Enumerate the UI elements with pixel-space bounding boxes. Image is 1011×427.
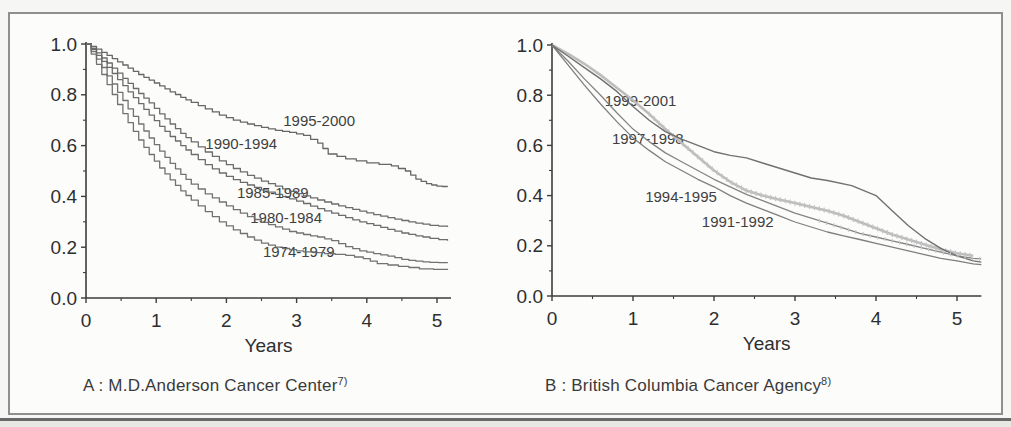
panel-b-x-tick-label: 5 <box>952 308 963 329</box>
caption-panel-a: A : M.D.Anderson Cancer Center7) <box>83 375 348 396</box>
panel-b-x-tick-label: 4 <box>871 308 882 329</box>
panel-b-x-tick-label: 2 <box>709 308 720 329</box>
panel-a-y-tick-label: 0.8 <box>51 84 77 105</box>
survival-charts-svg: 1.00.80.60.40.20.0012345Years1995-200019… <box>0 0 1011 427</box>
series-label-1995-2000: 1995-2000 <box>283 112 355 129</box>
panel-b-y-tick-label: 0.0 <box>517 286 543 307</box>
panel-a-x-tick-label: 4 <box>362 310 373 331</box>
panel-a-x-tick-label: 2 <box>221 310 232 331</box>
curve-1974-1979 <box>86 44 448 270</box>
panel-a-x-tick-label: 5 <box>432 310 443 331</box>
panel-a-x-tick-label: 0 <box>81 310 92 331</box>
panel-b-y-tick-label: 1.0 <box>517 35 543 56</box>
panel-b-x-tick-label: 0 <box>547 308 558 329</box>
curve-1995-2000 <box>86 44 448 187</box>
panel-b-y-tick-label: 0.4 <box>517 185 544 206</box>
panel-b-y-tick-label: 0.8 <box>517 85 543 106</box>
figure-scan: 1.00.80.60.40.20.0012345Years1995-200019… <box>0 0 1011 427</box>
caption-panel-b: B : British Columbia Cancer Agency8) <box>545 375 831 396</box>
series-label-1991-1992: 1991-1992 <box>702 213 774 230</box>
page-edge-strip <box>0 421 1011 427</box>
panel-a-x-axis-title: Years <box>245 335 293 356</box>
panel-a-y-tick-label: 0.2 <box>51 237 77 258</box>
panel-b-x-tick-label: 3 <box>790 308 801 329</box>
panel-a-y-tick-label: 0.4 <box>51 186 78 207</box>
caption-panel-a-reference: 7) <box>338 375 348 387</box>
curve-1980-1984 <box>86 44 448 263</box>
panel-a-x-tick-label: 3 <box>291 310 302 331</box>
panel-a-y-tick-label: 0.0 <box>51 288 77 309</box>
series-label-1990-1994: 1990-1994 <box>205 135 277 152</box>
panel-b-chart: 1.00.80.60.40.20.0012345Years1999-200119… <box>517 35 982 355</box>
caption-panel-b-text: B : British Columbia Cancer Agency <box>545 376 821 395</box>
series-label-1980-1984: 1980-1984 <box>250 209 322 226</box>
caption-panel-b-reference: 8) <box>821 375 831 387</box>
series-label-1997-1998: 1997-1998 <box>612 130 684 147</box>
panel-b-x-tick-label: 1 <box>628 308 639 329</box>
series-label-1994-1995: 1994-1995 <box>645 188 717 205</box>
panel-b-y-tick-label: 0.2 <box>517 235 543 256</box>
panel-a-y-tick-label: 1.0 <box>51 34 77 55</box>
caption-panel-a-text: A : M.D.Anderson Cancer Center <box>83 376 338 395</box>
panel-b-x-axis-title: Years <box>743 333 791 354</box>
panel-a-y-tick-label: 0.6 <box>51 135 77 156</box>
panel-a-chart: 1.00.80.60.40.20.0012345Years1995-200019… <box>51 34 451 357</box>
panel-b-y-tick-label: 0.6 <box>517 135 543 156</box>
panel-a-x-tick-label: 1 <box>151 310 162 331</box>
